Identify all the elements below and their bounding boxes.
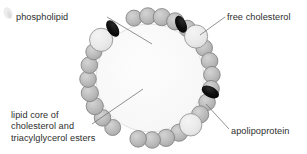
phospholipid-bead	[130, 131, 147, 148]
label-free-cholesterol: free cholesterol	[227, 12, 291, 23]
label-phospholipid: phospholipid	[16, 12, 68, 23]
leader-line-apolipoprotein	[206, 104, 229, 129]
label-lipid-core-line-2: cholesterol and	[11, 121, 131, 132]
label-apolipoprotein: apolipoprotein	[231, 126, 289, 137]
label-lipid-core: lipid core of cholesterol and triacylgly…	[11, 110, 131, 144]
scan-artifact	[2, 6, 14, 20]
leader-line-free-cholesterol	[200, 17, 225, 35]
label-lipid-core-line-1: lipid core of	[11, 110, 131, 121]
free-cholesterol-sphere	[179, 114, 201, 136]
diagram-canvas: phospholipid free cholesterol apolipopro…	[0, 0, 307, 154]
label-lipid-core-line-3: triacylglycerol esters	[11, 133, 131, 144]
free-cholesterol-sphere	[184, 25, 207, 48]
